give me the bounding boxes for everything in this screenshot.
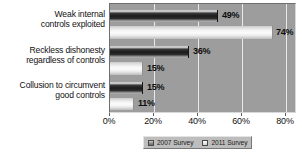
- x-axis: 0% 20% 40% 60% 80%: [109, 113, 296, 129]
- data-label-2011-reckless-dishonesty: 15%: [147, 63, 164, 73]
- plot-inner: [110, 4, 295, 112]
- chart-legend: 2007 Survey 2011 Survey: [143, 136, 252, 149]
- category-label-line: Collusion to circumvent: [0, 80, 105, 90]
- category-axis-labels: Weak internal controls exploited Reckles…: [0, 0, 108, 112]
- legend-label: 2011 Survey: [211, 139, 247, 146]
- legend-item-2007-survey[interactable]: 2007 Survey: [148, 139, 193, 146]
- category-label-weak-internal-controls: Weak internal controls exploited: [0, 9, 105, 29]
- gridline-60: [242, 4, 243, 112]
- category-label-reckless-dishonesty: Reckless dishonesty regardless of contro…: [0, 45, 105, 65]
- data-label-2011-collusion-to-circumvent: 11%: [138, 98, 155, 108]
- legend-swatch-icon: [202, 140, 208, 146]
- bar-2011-reckless-dishonesty[interactable]: [110, 62, 143, 75]
- category-label-collusion-to-circumvent: Collusion to circumvent good controls: [0, 80, 105, 100]
- bar-2007-reckless-dishonesty[interactable]: [110, 46, 189, 58]
- category-label-line: good controls: [0, 90, 105, 100]
- x-tick-label-0: 0%: [93, 116, 125, 126]
- x-tick-label-40: 40%: [181, 116, 213, 126]
- x-tick-label-20: 20%: [137, 116, 169, 126]
- data-label-2007-weak-internal-controls: 49%: [222, 10, 239, 20]
- legend-label: 2007 Survey: [157, 139, 193, 146]
- gridline-80: [286, 4, 287, 112]
- x-tick-label-80: 80%: [269, 116, 301, 126]
- legend-swatch-icon: [148, 140, 154, 146]
- category-label-line: Weak internal: [0, 9, 105, 19]
- bar-2007-weak-internal-controls[interactable]: [110, 10, 218, 22]
- category-label-line: regardless of controls: [0, 55, 105, 65]
- bar-2007-collusion-to-circumvent[interactable]: [110, 82, 143, 94]
- bar-chart: Weak internal controls exploited Reckles…: [0, 0, 302, 152]
- data-label-2007-reckless-dishonesty: 36%: [193, 46, 210, 56]
- category-label-line: Reckless dishonesty: [0, 45, 105, 55]
- legend-item-2011-survey[interactable]: 2011 Survey: [202, 139, 247, 146]
- data-label-2007-collusion-to-circumvent: 15%: [147, 82, 164, 92]
- bar-2011-weak-internal-controls[interactable]: [110, 26, 273, 39]
- category-label-line: controls exploited: [0, 19, 105, 29]
- plot-area: 49% 74% 36% 15% 15% 11%: [109, 3, 296, 113]
- data-label-2011-weak-internal-controls: 74%: [276, 27, 293, 37]
- x-tick-label-60: 60%: [225, 116, 257, 126]
- bar-2011-collusion-to-circumvent[interactable]: [110, 98, 134, 110]
